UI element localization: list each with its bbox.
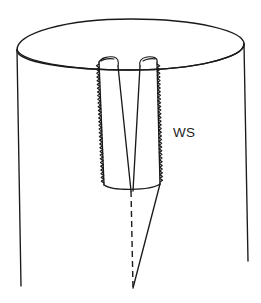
figure-container: WS [0, 0, 261, 303]
cylinder-notch-diagram: WS [0, 0, 261, 303]
ws-label: WS [173, 125, 195, 140]
